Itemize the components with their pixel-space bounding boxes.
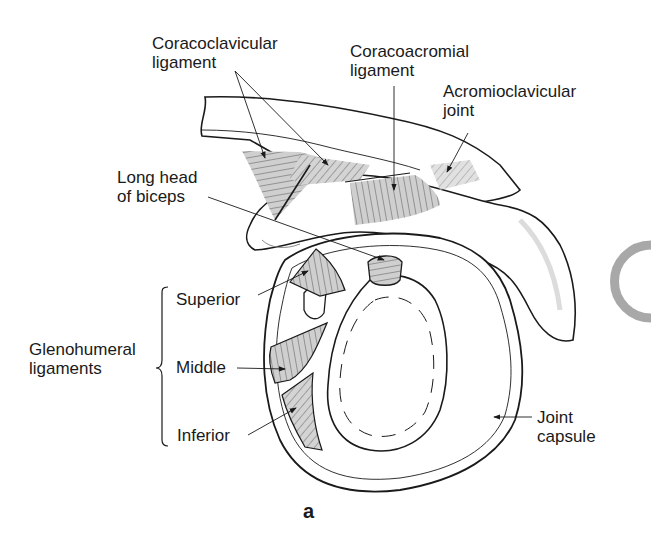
label-coracoclavicular-ligament: Coracoclavicular ligament: [152, 34, 278, 72]
label-glenohumeral-ligaments: Glenohumeral ligaments: [29, 340, 136, 378]
label-acromioclavicular-joint: Acromioclavicular joint: [443, 82, 576, 120]
label-line-2: ligament: [152, 53, 278, 72]
label-line-1: Joint: [537, 408, 596, 427]
label-line-2: capsule: [537, 427, 596, 446]
label-line-1: Coracoacromial: [350, 42, 469, 61]
label-superior: Superior: [176, 290, 240, 309]
label-inferior: Inferior: [177, 426, 230, 445]
label-line-1: Acromioclavicular: [443, 82, 576, 101]
label-line-2: joint: [443, 101, 576, 120]
label-line-2: ligaments: [29, 359, 136, 378]
shoulder-ligament-diagram: Coracoclavicular ligament Coracoacromial…: [0, 0, 651, 542]
partial-circle-decoration: [615, 245, 651, 318]
label-coracoacromial-ligament: Coracoacromial ligament: [350, 42, 469, 80]
biceps-tendon-shape: [368, 256, 402, 285]
label-line-2: ligament: [350, 61, 469, 80]
label-line-2: of biceps: [117, 187, 197, 206]
panel-label: a: [303, 502, 314, 521]
label-joint-capsule: Joint capsule: [537, 408, 596, 446]
label-line-1: Long head: [117, 168, 197, 187]
label-middle: Middle: [176, 358, 226, 377]
label-long-head-of-biceps: Long head of biceps: [117, 168, 197, 206]
label-line-1: Coracoclavicular: [152, 34, 278, 53]
label-line-1: Glenohumeral: [29, 340, 136, 359]
